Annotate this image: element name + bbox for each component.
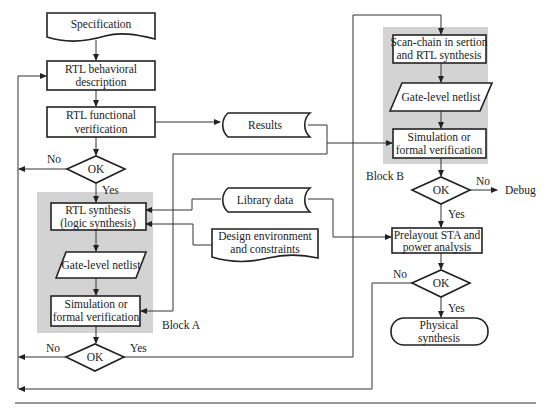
svg-text:RTL synthesis: RTL synthesis xyxy=(65,204,131,217)
svg-text:synthesis: synthesis xyxy=(418,332,461,345)
flowchart: Specification RTL behavioral description… xyxy=(0,0,548,412)
svg-text:and constraints: and constraints xyxy=(230,243,300,255)
node-library-data: Library data xyxy=(223,188,310,212)
node-prelayout: Prelayout STA and power analysis xyxy=(392,228,482,254)
node-physical-synthesis: Physical synthesis xyxy=(391,318,488,345)
node-simulation-b: Simulation or formal verification xyxy=(393,129,486,158)
svg-text:RTL functional: RTL functional xyxy=(66,109,136,121)
svg-text:Design environment: Design environment xyxy=(218,230,312,243)
svg-text:Scan-chain in sertion: Scan-chain in sertion xyxy=(390,36,487,48)
svg-text:Gate-level netlist: Gate-level netlist xyxy=(402,91,482,103)
svg-text:Results: Results xyxy=(248,119,282,131)
label-block-a: Block A xyxy=(162,319,201,331)
svg-text:Gate-level netlist: Gate-level netlist xyxy=(62,259,142,271)
label-yes-2: Yes xyxy=(130,342,147,354)
node-results: Results xyxy=(223,113,310,137)
svg-text:Simulation or: Simulation or xyxy=(65,298,128,310)
svg-text:and RTL synthesis: and RTL synthesis xyxy=(396,49,482,62)
node-debug: Debug xyxy=(505,184,536,197)
label-no-b: No xyxy=(476,175,490,187)
node-rtl-functional: RTL functional verification xyxy=(47,107,155,137)
node-design-environment: Design environment and constraints xyxy=(212,229,318,261)
svg-text:power analysis: power analysis xyxy=(403,241,472,254)
label-block-b: Block B xyxy=(366,170,404,182)
svg-text:OK: OK xyxy=(433,277,450,289)
svg-text:Simulation or: Simulation or xyxy=(408,131,471,143)
svg-text:Specification: Specification xyxy=(71,18,132,31)
svg-text:OK: OK xyxy=(87,351,104,363)
label-no-c: No xyxy=(393,268,407,280)
svg-text:formal verification: formal verification xyxy=(396,144,483,156)
label-yes-c: Yes xyxy=(448,302,465,314)
svg-text:description: description xyxy=(75,76,126,89)
decision-ok-c: OK xyxy=(412,270,470,297)
node-rtl-behavioral: RTL behavioral description xyxy=(47,61,155,90)
svg-text:Library data: Library data xyxy=(237,194,294,207)
node-specification: Specification xyxy=(47,13,155,41)
node-gate-netlist-b: Gate-level netlist xyxy=(390,83,492,111)
label-yes-1: Yes xyxy=(102,184,119,196)
label-yes-b: Yes xyxy=(448,208,465,220)
svg-text:(logic synthesis): (logic synthesis) xyxy=(60,217,136,230)
svg-text:verification: verification xyxy=(74,123,127,135)
node-rtl-synthesis: RTL synthesis (logic synthesis) xyxy=(51,203,146,230)
label-no-1: No xyxy=(47,153,61,165)
node-gate-netlist-a: Gate-level netlist xyxy=(56,252,146,278)
node-scan-chain: Scan-chain in sertion and RTL synthesis xyxy=(390,35,487,63)
svg-text:RTL behavioral: RTL behavioral xyxy=(65,63,137,75)
label-no-2: No xyxy=(46,342,60,354)
decision-ok-b: OK xyxy=(412,177,470,204)
svg-text:Physical: Physical xyxy=(420,319,459,332)
decision-ok-2: OK xyxy=(66,344,124,371)
decision-ok-1: OK xyxy=(67,156,125,183)
svg-text:OK: OK xyxy=(433,184,450,196)
node-simulation-a: Simulation or formal verification xyxy=(51,296,140,326)
svg-text:OK: OK xyxy=(88,163,105,175)
svg-text:formal verification: formal verification xyxy=(53,311,140,323)
